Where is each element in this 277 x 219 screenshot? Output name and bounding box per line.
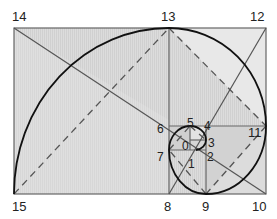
label-5: 5 bbox=[187, 116, 194, 130]
label-2: 2 bbox=[207, 150, 214, 164]
label-10: 10 bbox=[252, 199, 266, 214]
label-12: 12 bbox=[250, 9, 264, 24]
label-7: 7 bbox=[157, 150, 164, 164]
label-4: 4 bbox=[204, 119, 211, 133]
golden-spiral-diagram: 14 13 12 15 8 9 10 11 6 5 4 0 3 7 2 1 bbox=[0, 0, 277, 219]
label-15: 15 bbox=[12, 199, 26, 214]
label-3: 3 bbox=[208, 136, 215, 150]
label-13: 13 bbox=[161, 9, 175, 24]
label-11: 11 bbox=[248, 125, 262, 140]
label-0: 0 bbox=[182, 139, 189, 153]
label-8: 8 bbox=[164, 199, 171, 214]
label-1: 1 bbox=[188, 157, 195, 171]
label-6: 6 bbox=[157, 122, 164, 136]
label-9: 9 bbox=[202, 199, 209, 214]
label-14: 14 bbox=[12, 9, 26, 24]
